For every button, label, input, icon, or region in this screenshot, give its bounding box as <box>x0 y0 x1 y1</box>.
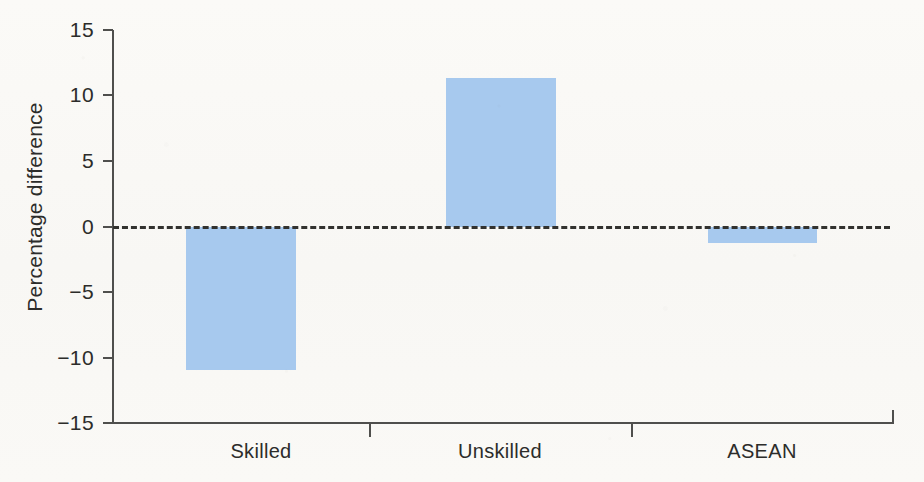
x-axis-tick-1 <box>369 424 371 437</box>
y-axis-label-neg5: −5 <box>42 280 94 304</box>
x-axis-label-asean: ASEAN <box>652 440 872 463</box>
y-axis-tick-neg5 <box>103 291 113 293</box>
y-axis-tick-15 <box>103 29 113 31</box>
y-axis-label-0: 0 <box>42 215 94 239</box>
zero-reference-line <box>113 226 890 229</box>
y-axis-tick-5 <box>103 160 113 162</box>
y-axis-tick-neg15 <box>103 422 113 424</box>
y-axis-title: Percentage difference <box>23 27 47 387</box>
y-axis-label-10: 10 <box>42 83 94 107</box>
y-axis-tick-10 <box>103 94 113 96</box>
y-axis-label-5: 5 <box>42 149 94 173</box>
y-axis-label-neg10: −10 <box>42 346 94 370</box>
x-axis-right-cap <box>892 410 894 424</box>
bar-asean <box>708 227 817 243</box>
bar-skilled <box>186 227 296 370</box>
bar-chart-figure: Percentage difference 15 10 5 0 −5 −10 −… <box>0 0 924 482</box>
bar-unskilled <box>446 78 556 227</box>
x-axis-line <box>113 422 894 424</box>
x-axis-label-unskilled: Unskilled <box>390 440 610 463</box>
x-axis-tick-2 <box>631 424 633 437</box>
x-axis-label-skilled: Skilled <box>151 440 371 463</box>
y-axis-tick-neg10 <box>103 357 113 359</box>
y-axis-tick-0 <box>103 226 113 228</box>
y-axis-label-15: 15 <box>42 18 94 42</box>
y-axis-label-neg15: −15 <box>42 411 94 435</box>
